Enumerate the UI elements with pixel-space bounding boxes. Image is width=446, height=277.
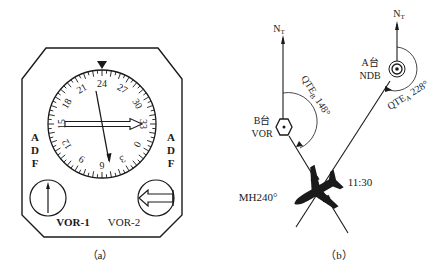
right-adf-letters: A D F (167, 131, 175, 169)
double-arrow-left-icon (139, 190, 173, 206)
compass-label: 30 (130, 96, 145, 110)
compass-label: 18 (59, 96, 74, 110)
compass-label: 12 (59, 137, 74, 151)
fix-time-label: 11:30 (348, 176, 373, 188)
station-b-name: B台 (254, 114, 271, 126)
station-b-north-label: NT (273, 23, 285, 36)
north-arrow-icon (395, 21, 399, 30)
arc-arrow-icon (385, 86, 392, 92)
ndb-station-icon (389, 61, 405, 77)
station-a-north-label: NT (393, 8, 405, 21)
station-a-name: A台 (361, 56, 378, 68)
left-letter-d: D (31, 144, 39, 156)
arrow-up-icon (46, 182, 50, 189)
arc-arrow-icon (296, 141, 303, 147)
aircraft-heading-label: MH240° (239, 191, 278, 203)
left-letter-f: F (32, 157, 39, 169)
panel-b-fix-diagram: NT NT B台 VOR A台 NDB QTEB 148° (239, 8, 431, 261)
lubber-triangle-icon (97, 61, 107, 69)
instrument-frame (22, 48, 182, 237)
panel-b-caption: （b） (325, 249, 353, 261)
compass-label: 24 (97, 78, 107, 89)
right-letter-d: D (167, 144, 175, 156)
right-letter-a: A (167, 131, 175, 143)
compass-label: 6 (100, 160, 105, 171)
vor2-label: VOR-2 (108, 216, 140, 228)
vor1-selector-knob[interactable] (30, 180, 66, 216)
compass-label: 9 (77, 153, 87, 165)
vor2-selector-knob[interactable] (138, 180, 174, 216)
aircraft-icon (282, 158, 350, 225)
vor1-label: VOR-1 (56, 216, 89, 228)
compass-label: 0 (131, 140, 143, 150)
compass-label: 21 (74, 81, 88, 96)
panel-a-rmi-instrument: 24273033036912151821 A D F A D F (22, 48, 182, 261)
left-adf-letters: A D F (31, 131, 39, 169)
compass-label: 3 (118, 153, 128, 165)
compass-label: 27 (115, 81, 129, 96)
station-b-type: VOR (251, 128, 272, 139)
panel-a-caption: （a） (87, 249, 114, 261)
north-arrow-icon (281, 35, 285, 44)
qte-a-label: QTEA 228° (385, 78, 431, 113)
right-letter-f: F (168, 157, 175, 169)
figure: 24273033036912151821 A D F A D F (0, 0, 446, 277)
left-letter-a: A (31, 131, 39, 143)
station-a-type: NDB (359, 70, 380, 81)
